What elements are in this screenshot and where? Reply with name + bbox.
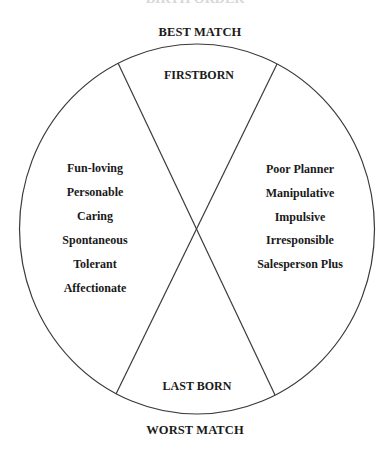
left-trait: Tolerant [73, 258, 117, 270]
left-trait: Caring [77, 210, 113, 222]
firstborn-label: FIRSTBORN [164, 69, 234, 81]
left-trait: Spontaneous [62, 234, 127, 246]
birth-order-diagram: BIRTH ORDER BEST MATCH FIRSTBORN Fun-lov… [0, 0, 390, 451]
left-trait: Fun-loving [67, 162, 123, 174]
left-trait: Affectionate [64, 282, 127, 294]
right-trait: Salesperson Plus [257, 258, 343, 270]
best-match-label: BEST MATCH [159, 26, 242, 39]
right-trait: Irresponsible [266, 234, 334, 246]
divider-line-ascending [116, 64, 277, 394]
left-trait: Personable [67, 186, 124, 198]
right-trait: Manipulative [266, 187, 335, 199]
last-born-label: LAST BORN [163, 380, 232, 392]
right-trait: Impulsive [275, 211, 326, 223]
right-trait: Poor Planner [266, 163, 334, 175]
worst-match-label: WORST MATCH [146, 424, 244, 437]
